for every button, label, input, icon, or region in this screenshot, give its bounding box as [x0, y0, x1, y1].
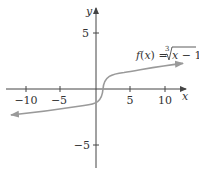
- x-tick-label: 10: [158, 94, 172, 107]
- radical-index: 3: [165, 45, 169, 53]
- function-label: f(x) = 3 x − 1: [135, 45, 199, 62]
- y-tick-label: −5: [74, 139, 90, 152]
- function-curve-right-arrow: [175, 63, 183, 64]
- y-axis-label: y: [85, 5, 93, 18]
- x-axis-label: x: [182, 90, 189, 103]
- x-tick-label: 5: [127, 94, 134, 107]
- y-tick-label: 5: [82, 27, 89, 40]
- svg-text:x − 1: x − 1: [172, 49, 199, 62]
- x-tick-label: −10: [14, 94, 37, 107]
- x-tick-label: −5: [51, 94, 67, 107]
- svg-text:f(x) =: f(x) =: [135, 49, 168, 62]
- cube-root-graph: −10 −5 5 10 5 −5 x y f(x) = 3 x − 1: [0, 0, 199, 175]
